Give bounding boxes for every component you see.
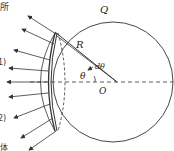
margin-text-bottom: 体 — [0, 142, 8, 151]
margin-text-mid2: 2) — [0, 114, 6, 123]
sphere-diagram: Q R dθ θ O 所 1) 2) 体 — [0, 0, 174, 151]
label-q: Q — [100, 4, 108, 15]
dtheta-pointer — [88, 67, 93, 70]
margin-text-top: 所 — [0, 2, 9, 12]
label-r: R — [75, 39, 84, 50]
label-theta: θ — [80, 71, 86, 81]
label-o: O — [99, 86, 107, 96]
margin-text-mid1: 1) — [0, 58, 6, 67]
theta-arc — [94, 76, 95, 82]
radius-line-2 — [57, 36, 117, 82]
sphere-outline — [53, 22, 173, 142]
label-dtheta: dθ — [95, 62, 105, 71]
